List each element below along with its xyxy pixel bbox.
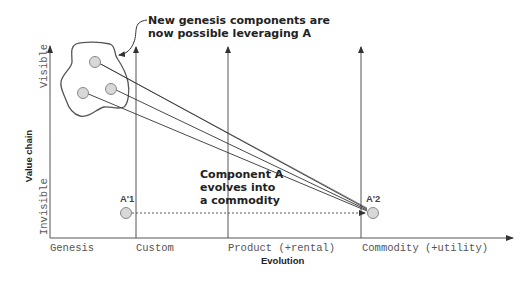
evolve-note-line2: evolves into bbox=[200, 181, 276, 194]
x-stage-custom: Custom bbox=[136, 242, 174, 254]
x-axis-title: Evolution bbox=[261, 255, 304, 266]
x-stage-product: Product (+rental) bbox=[228, 242, 335, 254]
genesis-note-line1: New genesis components are bbox=[148, 14, 330, 27]
component-a2-label: A'2 bbox=[366, 193, 380, 204]
genesis-callout-arrow bbox=[119, 20, 147, 55]
y-axis-top-label: Visible bbox=[38, 44, 50, 88]
x-stage-genesis: Genesis bbox=[50, 242, 94, 254]
genesis-note-line2: now possible leveraging A bbox=[148, 27, 311, 40]
component-a1-label: A'1 bbox=[120, 193, 135, 204]
component-a2 bbox=[368, 208, 379, 219]
genesis-component-1 bbox=[90, 57, 101, 68]
y-axis-bottom-label: Invisible bbox=[38, 178, 50, 235]
genesis-component-2 bbox=[106, 84, 117, 95]
genesis-component-3 bbox=[78, 88, 89, 99]
wardley-map-diagram: Visible Invisible Value chain Genesis Cu… bbox=[0, 0, 531, 281]
evolve-note-line1: Component A bbox=[200, 168, 284, 181]
y-axis-title: Value chain bbox=[23, 130, 34, 182]
genesis-cluster-outline bbox=[61, 42, 129, 116]
component-a1 bbox=[121, 208, 132, 219]
evolve-note-line3: a commodity bbox=[200, 194, 280, 207]
x-stage-commodity: Commodity (+utility) bbox=[362, 242, 488, 254]
